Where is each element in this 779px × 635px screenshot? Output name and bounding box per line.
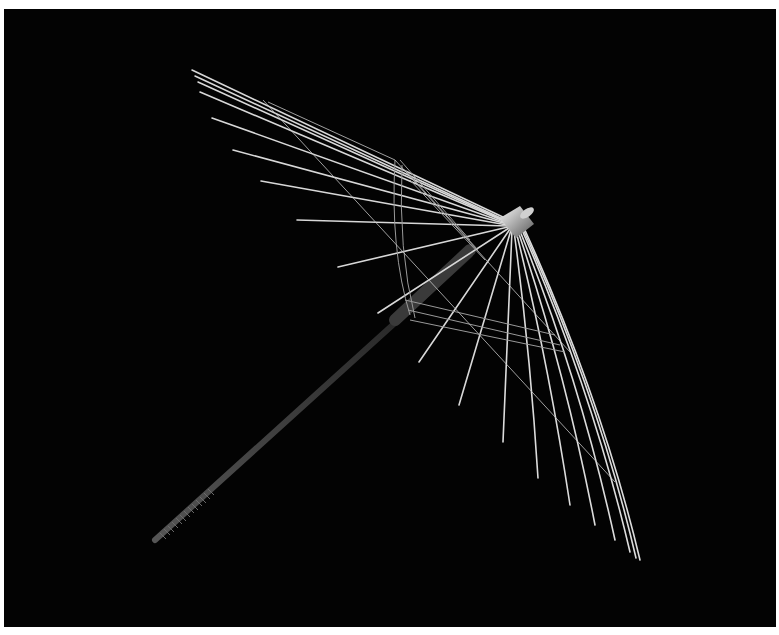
umbrella-hub — [500, 205, 536, 238]
umbrella-illustration — [0, 0, 779, 635]
stretchers — [394, 160, 565, 352]
umbrella-handle — [155, 250, 470, 540]
upper-ribs — [192, 70, 511, 405]
lower-ribs — [503, 228, 640, 560]
tie-wires — [263, 100, 615, 482]
